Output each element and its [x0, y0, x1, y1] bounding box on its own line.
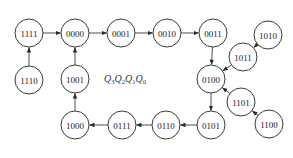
state-label: 0110 [157, 121, 175, 131]
transition-arrow-1100-to-1101 [252, 111, 258, 115]
state-label: 1000 [66, 121, 85, 131]
state-label: 0100 [202, 75, 221, 85]
state-label: 0111 [113, 121, 130, 131]
state-label: 1110 [20, 76, 38, 86]
state-node-1011: 1011 [229, 43, 257, 71]
state-label: 1100 [260, 120, 278, 130]
state-node-1100: 1100 [255, 110, 283, 138]
state-node-0110: 0110 [152, 111, 180, 139]
state-node-1010: 1010 [254, 21, 282, 49]
state-node-0011: 0011 [199, 19, 227, 47]
state-node-1101: 1101 [227, 88, 255, 116]
state-label: 0010 [158, 29, 177, 39]
state-label: 0011 [204, 29, 222, 39]
state-node-1000: 1000 [61, 111, 89, 139]
transition-arrow-1101-to-0100 [223, 88, 230, 94]
state-label: 1001 [66, 75, 84, 85]
state-variables-label: Q3Q2Q1Q0 [104, 73, 146, 85]
transition-arrow-0011-to-0100 [212, 47, 213, 65]
state-label: 0000 [66, 29, 85, 39]
state-label: 1111 [21, 29, 38, 39]
transition-arrow-1011-to-0100 [223, 65, 232, 71]
state-node-1001: 1001 [61, 65, 89, 93]
transition-arrow-1010-to-1011 [254, 44, 258, 47]
state-nodes: 1111000000010010001110101011010011011100… [15, 19, 283, 139]
state-node-1111: 1111 [15, 19, 43, 47]
state-node-0101: 0101 [197, 111, 225, 139]
state-node-0100: 0100 [197, 65, 225, 93]
state-label: 1101 [232, 98, 250, 108]
state-node-0010: 0010 [153, 19, 181, 47]
state-label: 0001 [112, 29, 130, 39]
state-label: 1010 [259, 31, 278, 41]
state-node-0000: 0000 [61, 19, 89, 47]
state-node-1110: 1110 [15, 66, 43, 94]
state-label: 1011 [234, 53, 252, 63]
state-node-0111: 0111 [108, 111, 136, 139]
state-label: 0101 [202, 121, 220, 131]
state-transition-diagram: 1111000000010010001110101011010011011100… [0, 0, 293, 158]
state-node-0001: 0001 [107, 19, 135, 47]
